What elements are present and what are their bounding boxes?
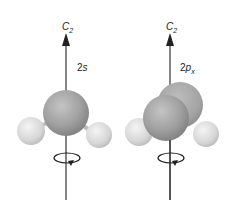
rotation-arrow-icon [158,153,184,163]
hydrogen-atom [17,117,45,145]
axis-label: C2 [166,21,177,34]
central-atom-2s-orbital [43,90,89,136]
p-orbital-front-lobe [143,95,189,141]
orbital-label: 2px [180,62,195,75]
axis-arrowhead-icon [62,33,70,46]
rotation-arrow-icon [54,153,80,163]
hydrogen-atom [193,121,219,147]
diagram-canvas: C2 2s C2 2px [0,0,236,218]
hydrogen-atom [86,122,112,148]
axis-arrowhead-icon [166,33,174,46]
panel-2s: C2 2s [17,21,112,200]
axis-label: C2 [62,21,73,34]
orbital-label: 2s [77,62,88,73]
panel-2px: C2 2px [125,21,219,200]
